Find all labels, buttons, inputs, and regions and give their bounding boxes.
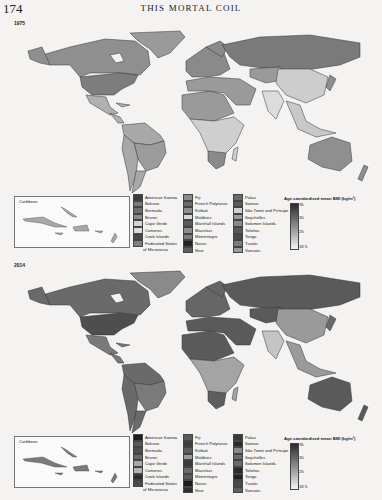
legend-item: Brunei (133, 214, 183, 221)
legend-1975: American Samoa Bahrain Bermuda Brunei Ca… (133, 194, 283, 256)
scale-tick: 30 (299, 215, 304, 220)
legend-item: Seychelles (233, 214, 283, 221)
legend-swatch (233, 247, 243, 254)
legend-swatch (133, 227, 143, 234)
legend-swatch (183, 474, 193, 481)
legend-item: American Samoa (133, 194, 183, 201)
legend-swatch (233, 227, 243, 234)
legend-swatch (183, 247, 193, 254)
legend-swatch (133, 201, 143, 208)
legend-item: Kiribati (183, 447, 233, 454)
legend-swatch (233, 460, 243, 467)
usa (80, 73, 138, 95)
scale-tick: 25 (299, 229, 304, 234)
madagascar (232, 147, 238, 161)
legend-swatch (183, 460, 193, 467)
color-scale-1975: Age-standardised mean BMI (kg/m²) 35 30 … (282, 196, 382, 258)
legend-item: Cape Verde (133, 220, 183, 227)
china (276, 69, 328, 103)
legend-item: Solomon Islands (233, 220, 283, 227)
legend-col-3: Palau Samoa São Tomé and Príncipe Seyche… (233, 194, 283, 253)
southeast-asia (286, 101, 336, 137)
legend-swatch (133, 207, 143, 214)
cuba-inset (23, 457, 67, 467)
legend-item: Cape Verde (133, 460, 183, 467)
scale-tick: 30 (299, 455, 304, 460)
legend-swatch (183, 480, 193, 487)
legend-swatch (233, 214, 243, 221)
legend-swatch (133, 214, 143, 221)
legend-swatch (233, 434, 243, 441)
color-scale-2014: Age-standardised mean BMI (kg/m²) 35 30 … (282, 436, 382, 498)
legend-item: Seychelles (233, 454, 283, 461)
legend-item: Vanuatu (233, 247, 283, 254)
usa (80, 313, 138, 335)
legend-item: Mauritius (183, 467, 233, 474)
legend-swatch (183, 447, 193, 454)
legend-item: Tuvalu (233, 240, 283, 247)
canada (42, 279, 150, 317)
legend-item: Palau (233, 194, 283, 201)
legend-swatch (183, 194, 193, 201)
legend-item: Palau (233, 434, 283, 441)
legend-item: Tokelau (233, 467, 283, 474)
legend-swatch (233, 487, 243, 494)
legend-2014: American Samoa Bahrain Bermuda Brunei Ca… (133, 434, 283, 496)
legend-item: Maldives (183, 214, 233, 221)
legend-swatch (133, 234, 143, 241)
legend-item: Comoros (133, 227, 183, 234)
legend-swatch (233, 201, 243, 208)
legend-item: Vanuatu (233, 487, 283, 494)
scale-tick: 25 (299, 469, 304, 474)
russia (222, 35, 360, 71)
cuba (116, 343, 130, 347)
legend-swatch (133, 220, 143, 227)
canada (42, 39, 150, 77)
legend-swatch (133, 441, 143, 448)
legend-item: Cook Islands (133, 474, 183, 481)
legend-item: Montenegro (183, 474, 233, 481)
gradient-bar (290, 443, 299, 490)
hispaniola-inset (73, 465, 89, 471)
jamaica-inset (55, 473, 63, 475)
legend-swatch (233, 447, 243, 454)
legend-item-continuation: of Micronesia (133, 247, 183, 254)
legend-swatch (233, 454, 243, 461)
running-head: THIS MORTAL COIL (0, 3, 382, 13)
inset-label: Caribbean (19, 199, 37, 204)
inset-label: Caribbean (19, 439, 37, 444)
legend-swatch (183, 454, 193, 461)
legend-col-1: American Samoa Bahrain Bermuda Brunei Ca… (133, 434, 183, 493)
southern-africa (208, 391, 226, 409)
legend-item: Tonga (233, 474, 283, 481)
brazil (134, 141, 166, 171)
legend-swatch (183, 240, 193, 247)
hispaniola-inset (73, 225, 89, 231)
legend-item: Cook Islands (133, 234, 183, 241)
russia (222, 275, 360, 311)
australia (308, 137, 352, 171)
legend-swatch (133, 460, 143, 467)
legend-item: Kiribati (183, 207, 233, 214)
legend-swatch (183, 214, 193, 221)
legend-col-2: Fiji French Polynesia Kiribati Maldives … (183, 194, 233, 253)
legend-swatch (133, 194, 143, 201)
brazil (134, 381, 166, 411)
legend-item: São Tomé and Príncipe (233, 207, 283, 214)
legend-item: São Tomé and Príncipe (233, 447, 283, 454)
new-zealand (358, 165, 368, 181)
legend-swatch (233, 220, 243, 227)
cuba (116, 103, 130, 107)
lesser-antilles-inset (111, 233, 117, 243)
legend-item: Samoa (233, 201, 283, 208)
legend-item: Niue (183, 487, 233, 494)
legend-swatch (133, 434, 143, 441)
legend-item: Bermuda (133, 207, 183, 214)
legend-item: Fiji (183, 194, 233, 201)
legend-col-2: Fiji French Polynesia Kiribati Maldives … (183, 434, 233, 493)
legend-swatch (233, 474, 243, 481)
southeast-asia (286, 341, 336, 377)
legend-swatch (183, 220, 193, 227)
puerto-rico-inset (95, 231, 103, 233)
scale-tick: 35 (299, 442, 304, 447)
